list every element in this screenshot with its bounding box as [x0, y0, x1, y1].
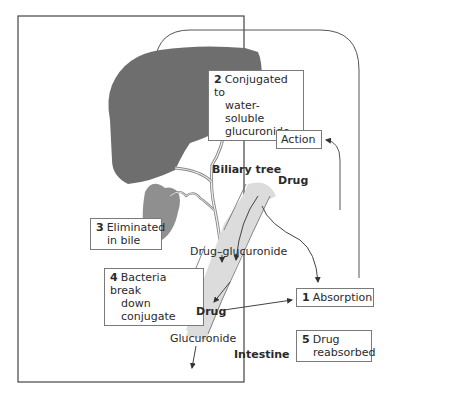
step5-reabsorbed-box: 5Drug reabsorbed	[296, 330, 372, 362]
glucuronide-excretion-arrow	[192, 346, 196, 368]
biliary-tree-label: Biliary tree	[212, 163, 281, 176]
absorption-arrow	[224, 300, 292, 310]
step3-elimination-box: 3Eliminated in bile	[90, 218, 162, 250]
drug-glucuronide-label: Drug–glucuronide	[190, 245, 287, 258]
drug-bottom-label: Drug	[196, 305, 226, 318]
drug-to-absorption-curve	[262, 206, 318, 282]
intestine-label: Intestine	[234, 348, 290, 361]
step1-absorption-box: 1Absorption	[296, 288, 374, 307]
step4-bacteria-box: 4Bacteria break down conjugate	[104, 268, 204, 326]
biliary-duct-left	[175, 168, 212, 182]
action-box: Action	[276, 130, 322, 149]
glucuronide-label: Glucuronide	[170, 332, 236, 345]
enterohepatic-circulation-diagram: 2Conjugated to water-soluble glucuronide…	[0, 0, 460, 397]
action-arrow	[326, 140, 340, 210]
drug-top-label: Drug	[278, 174, 308, 187]
